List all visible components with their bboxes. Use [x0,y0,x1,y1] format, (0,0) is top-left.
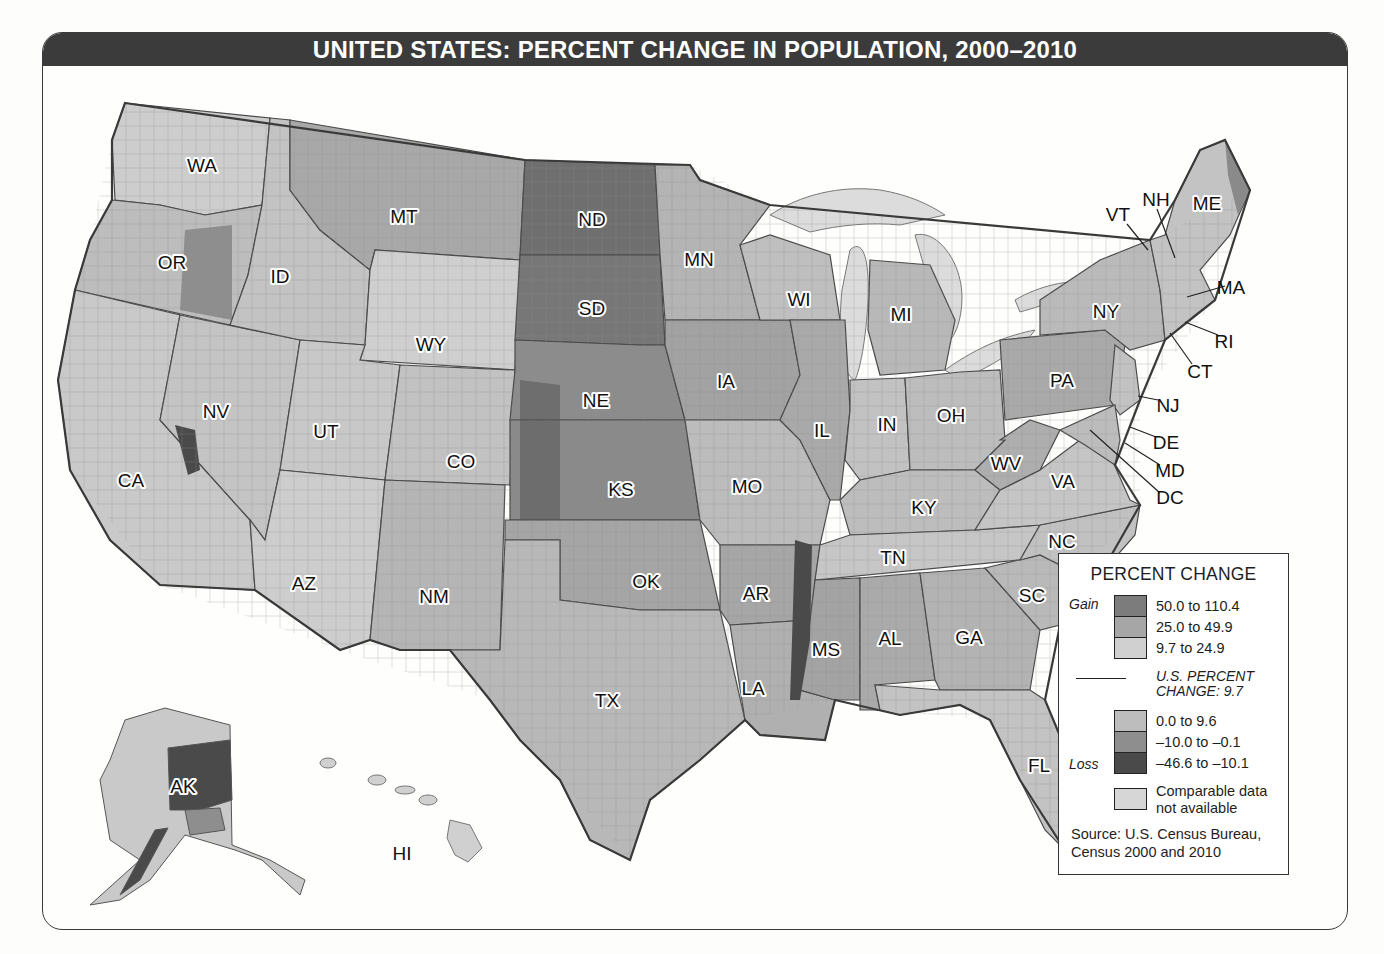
state-label-al: AL [878,628,901,649]
state-label-mi: MI [890,304,911,325]
swatch-low-growth [1114,710,1147,732]
state-label-pa: PA [1050,370,1074,391]
state-label-tn: TN [880,547,905,568]
state-label-nm: NM [419,586,449,607]
legend-item-label: 25.0 to 49.9 [1156,619,1233,635]
state-label-oh: OH [937,405,966,426]
state-label-ct: CT [1187,361,1213,382]
state-label-ia: IA [717,371,735,392]
us-average-line [1076,678,1126,679]
state-label-sd: SD [579,298,605,319]
state-label-nj: NJ [1156,395,1179,416]
state-label-ks: KS [608,479,633,500]
legend-loss-label: Loss [1069,756,1099,772]
swatch-gain-low [1114,637,1147,659]
state-label-mo: MO [732,476,763,497]
state-label-ca: CA [118,470,145,491]
state-label-nv: NV [203,401,230,422]
state-label-or: OR [158,252,187,273]
state-label-fl: FL [1028,755,1050,776]
state-label-ak: AK [170,776,196,797]
state-label-ut: UT [313,421,339,442]
state-label-mt: MT [390,206,418,227]
state-label-ms: MS [812,639,841,660]
us-average-line2: CHANGE: 9.7 [1156,684,1254,699]
source-line1: Source: U.S. Census Bureau, [1071,825,1261,843]
state-label-ga: GA [955,627,983,648]
state-label-tx: TX [595,690,620,711]
legend-item-label: 9.7 to 24.9 [1156,640,1225,656]
state-label-de: DE [1153,432,1179,453]
swatch-gain-mid [1114,616,1147,638]
state-label-az: AZ [292,573,317,594]
state-label-ar: AR [743,583,769,604]
state-label-in: IN [878,414,897,435]
state-label-co: CO [447,451,476,472]
state-label-va: VA [1051,471,1075,492]
alaska [90,708,305,905]
legend-na-label: Comparable data not available [1156,783,1267,817]
state-label-wi: WI [787,289,810,310]
state-label-il: IL [814,420,830,441]
source-note: Source: U.S. Census Bureau, Census 2000 … [1071,825,1261,861]
state-label-ne: NE [583,390,609,411]
state-label-mn: MN [684,249,714,270]
state-label-la: LA [741,678,765,699]
state-label-id: ID [271,266,290,287]
state-label-wv: WV [991,453,1022,474]
swatch-gain-high [1114,595,1147,617]
legend-item-label: 0.0 to 9.6 [1156,713,1216,729]
us-average-line1: U.S. PERCENT [1156,669,1254,684]
state-label-me: ME [1193,193,1222,214]
na-line2: not available [1156,800,1267,817]
state-label-nd: ND [578,209,605,230]
na-line1: Comparable data [1156,783,1267,800]
legend-item-label: 50.0 to 110.4 [1156,598,1240,614]
us-average-label: U.S. PERCENT CHANGE: 9.7 [1156,669,1254,699]
swatch-not-available [1114,788,1147,810]
state-label-ri: RI [1215,331,1234,352]
swatch-loss-mid [1114,731,1147,753]
plains-dark-band [520,380,560,520]
state-label-wy: WY [416,334,447,355]
state-label-ok: OK [632,571,660,592]
legend-item-label: –46.6 to –10.1 [1156,755,1249,771]
legend-title: PERCENT CHANGE [1059,564,1288,585]
legend-gain-label: Gain [1069,596,1099,612]
source-line2: Census 2000 and 2010 [1071,843,1261,861]
state-label-ky: KY [911,497,937,518]
state-label-nh: NH [1142,189,1169,210]
state-label-nc: NC [1048,531,1075,552]
state-label-dc: DC [1156,487,1183,508]
state-label-ma: MA [1217,277,1246,298]
state-label-ny: NY [1093,301,1120,322]
legend-item-label: –10.0 to –0.1 [1156,734,1241,750]
legend: PERCENT CHANGE Gain 50.0 to 110.4 25.0 t… [1058,553,1289,875]
state-label-md: MD [1155,460,1185,481]
state-label-sc: SC [1019,585,1045,606]
swatch-loss-high [1114,752,1147,774]
state-label-vt: VT [1106,204,1131,225]
state-label-wa: WA [187,155,217,176]
state-label-hi: HI [393,843,412,864]
